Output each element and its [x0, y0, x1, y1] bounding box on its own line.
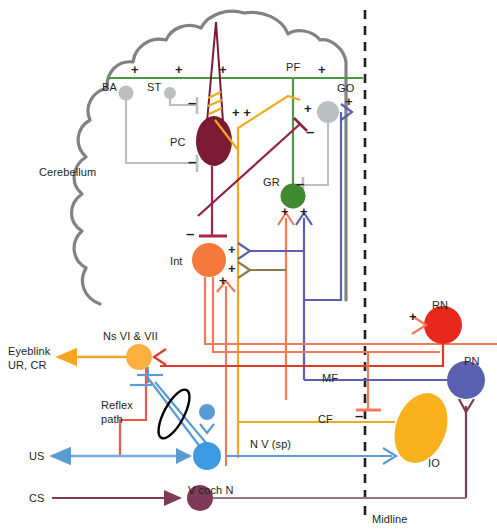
inferior-olive [226, 386, 457, 471]
label-ba: BA [102, 81, 117, 93]
sign-int-minus: – [186, 229, 194, 239]
sign-pf-plus-3: + [219, 65, 227, 75]
label-eyeblink-line2: UR, CR [8, 359, 47, 371]
sign-gr-plus-right: + [300, 207, 308, 217]
mossy-fiber-pathway [304, 104, 485, 498]
label-go: GO [337, 82, 354, 94]
sign-st-minus: – [188, 98, 196, 108]
reflex-path-pathway [130, 367, 215, 456]
purkinje-cell [196, 22, 232, 236]
sign-rn-plus: + [409, 312, 417, 322]
sign-ba-minus: – [188, 157, 196, 167]
basket-cell-pathway [119, 86, 198, 173]
label-int: Int [170, 255, 183, 267]
cs-pathway [52, 485, 466, 511]
label-v-coch-n: V coch N [188, 484, 233, 496]
label-midline: Midline [372, 513, 408, 525]
sign-gr-plus-left: + [281, 207, 289, 217]
label-nv-sp: N V (sp) [250, 438, 291, 450]
motor-output-pathway [58, 344, 166, 370]
label-ns-vi-vii: Ns VI & VII [103, 330, 158, 342]
sign-go-minus: – [306, 127, 314, 137]
sign-pc-plus-plus: + + [232, 108, 251, 118]
circuit-svg [0, 0, 497, 532]
label-cs: CS [29, 492, 44, 504]
sign-io-minus: – [355, 411, 363, 421]
label-io: IO [428, 457, 440, 469]
label-rn: RN [432, 299, 448, 311]
us-pathway [52, 442, 221, 470]
label-pn: PN [464, 355, 479, 367]
sign-go-plus-mf: + [345, 97, 353, 107]
label-pf: PF [286, 61, 300, 73]
diagram-canvas: Cerebellum BA ST PC PF GO GR Int RN PN I… [0, 0, 497, 532]
label-reflex-line1: Reflex [101, 399, 133, 411]
parallel-fiber-pathway [107, 78, 363, 185]
sign-pf-plus-2: + [175, 65, 183, 75]
label-pc: PC [170, 136, 185, 148]
label-cerebellum: Cerebellum [39, 166, 96, 178]
sign-go-plus-in: + [304, 104, 312, 114]
sign-gr-minus: – [296, 179, 304, 189]
label-st: ST [147, 81, 161, 93]
sign-int-plus-cf: + [228, 264, 236, 274]
sign-pf-plus-1: + [131, 65, 139, 75]
sign-int-plus-mf: + [228, 245, 236, 255]
label-us: US [29, 450, 44, 462]
label-cf: CF [318, 413, 333, 425]
label-gr: GR [263, 176, 280, 188]
label-mf: MF [322, 372, 338, 384]
sign-int-plus-recurrent: + [219, 276, 227, 286]
label-eyeblink-line1: Eyeblink [8, 345, 50, 357]
sign-pf-plus-4: + [318, 65, 326, 75]
label-reflex-line2: path [101, 413, 123, 425]
